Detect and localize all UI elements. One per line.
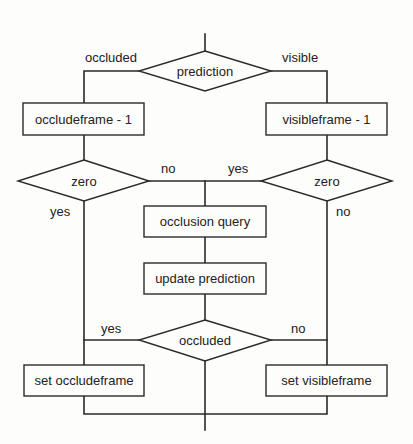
process-visibleframe-minus-1-label: visibleframe - 1 (282, 112, 370, 127)
edge-label-occluded-no: no (291, 321, 305, 336)
process-occlusion-query-label: occlusion query (160, 214, 251, 229)
process-set-occludeframe: set occludeframe (24, 365, 144, 396)
decision-zero-right-label: zero (314, 174, 339, 189)
edge-label-zero-left-yes: yes (50, 204, 71, 219)
process-visibleframe-minus-1: visibleframe - 1 (266, 103, 387, 135)
decision-zero-left-label: zero (71, 174, 96, 189)
decision-occluded-label: occluded (179, 333, 231, 348)
process-occlusion-query: occlusion query (144, 206, 266, 237)
edge-label-zero-right-no: no (336, 204, 350, 219)
flowchart-canvas: prediction occludeframe - 1 visibleframe… (0, 0, 413, 444)
edge-label-prediction-occluded: occluded (85, 50, 137, 65)
process-update-prediction: update prediction (144, 263, 266, 294)
decision-prediction-label: prediction (177, 64, 233, 79)
flowchart-svg: prediction occludeframe - 1 visibleframe… (0, 0, 413, 444)
process-set-visibleframe-label: set visibleframe (281, 373, 371, 388)
process-occludeframe-minus-1: occludeframe - 1 (23, 103, 144, 135)
connector-prediction-visible (271, 71, 327, 103)
decision-prediction: prediction (139, 51, 271, 91)
edge-label-zero-right-yes: yes (228, 161, 249, 176)
connector-prediction-occluded (84, 71, 139, 103)
process-set-visibleframe: set visibleframe (266, 365, 387, 396)
edge-label-occluded-yes: yes (101, 321, 122, 336)
decision-zero-left: zero (18, 160, 149, 201)
decision-zero-right: zero (261, 160, 392, 201)
process-set-occludeframe-label: set occludeframe (35, 373, 134, 388)
edge-label-prediction-visible: visible (282, 50, 318, 65)
decision-occluded: occluded (139, 320, 271, 361)
edge-label-zero-left-no: no (161, 161, 175, 176)
process-update-prediction-label: update prediction (155, 271, 255, 286)
process-occludeframe-minus-1-label: occludeframe - 1 (35, 112, 132, 127)
